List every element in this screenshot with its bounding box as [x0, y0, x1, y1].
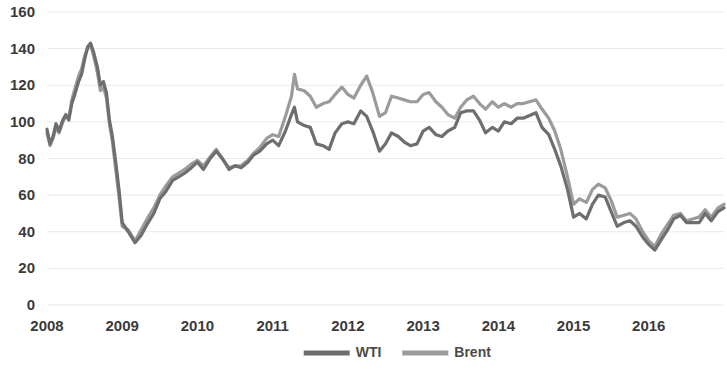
oil-price-line-chart: 020406080100120140160 200820092010201120… — [0, 0, 727, 373]
x-tick-label: 2010 — [181, 317, 214, 334]
y-tick-label: 0 — [27, 296, 35, 313]
legend-label-wti: WTI — [356, 344, 382, 360]
x-tick-label: 2016 — [632, 317, 665, 334]
x-tick-label: 2014 — [482, 317, 516, 334]
legend-label-brent: Brent — [454, 344, 491, 360]
y-tick-label: 40 — [18, 223, 35, 240]
chart-canvas: 020406080100120140160 200820092010201120… — [0, 0, 727, 373]
y-tick-label: 80 — [18, 150, 35, 167]
x-axis-tick-labels: 200820092010201120122013201420152016 — [30, 317, 665, 334]
y-tick-label: 100 — [10, 113, 35, 130]
y-tick-label: 120 — [10, 76, 35, 93]
x-tick-label: 2013 — [406, 317, 439, 334]
x-tick-label: 2009 — [106, 317, 139, 334]
y-tick-label: 60 — [18, 186, 35, 203]
x-tick-label: 2008 — [30, 317, 63, 334]
x-tick-label: 2011 — [256, 317, 289, 334]
x-tick-label: 2015 — [557, 317, 590, 334]
y-tick-label: 20 — [18, 259, 35, 276]
x-tick-label: 2012 — [331, 317, 364, 334]
y-tick-label: 140 — [10, 40, 35, 57]
y-tick-label: 160 — [10, 3, 35, 20]
